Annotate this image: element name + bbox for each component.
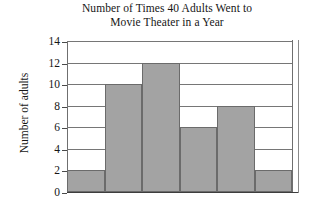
bar-2	[105, 84, 143, 192]
y-tick-label-2: 2	[54, 166, 60, 178]
y-tick-0	[62, 193, 67, 194]
bar-series	[67, 41, 292, 192]
bar-3	[142, 63, 180, 192]
y-tick-label-0: 0	[54, 187, 60, 199]
y-tick-label-12: 12	[49, 58, 61, 70]
y-axis-title: Number of adults	[12, 48, 36, 178]
bar-1	[67, 170, 105, 192]
y-tick-label-10: 10	[49, 79, 61, 91]
y-axis-title-text: Number of adults	[18, 73, 30, 153]
y-tick-label-6: 6	[54, 123, 60, 135]
bar-4	[180, 127, 218, 192]
bar-5	[217, 106, 255, 192]
y-tick-label-14: 14	[49, 36, 61, 48]
plot-right-edge	[292, 40, 293, 193]
plot-area: 14 12 10 8 6 4 2 0	[67, 41, 292, 192]
x-axis-baseline: 0	[67, 192, 298, 193]
histogram-figure: Number of Times 40 Adults Went to Movie …	[0, 0, 315, 200]
y-tick-label-4: 4	[54, 144, 60, 156]
plot-outer-right-edge	[298, 40, 299, 193]
y-tick-label-8: 8	[54, 101, 60, 113]
bar-6	[255, 170, 293, 192]
chart-title: Number of Times 40 Adults Went to Movie …	[42, 1, 292, 29]
